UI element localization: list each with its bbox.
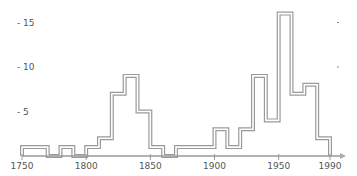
x-tick-label: 1900 [203,161,226,171]
histogram-inner-line [22,14,330,156]
y-tick-label: - 15 [17,18,35,28]
x-tick-label: 1950 [267,161,290,171]
x-tick-label: 1800 [75,161,98,171]
x-tick-label: 1990 [319,161,342,171]
x-axis-arrow-icon [340,153,346,159]
histogram-steps [22,14,330,156]
x-tick-label: 1850 [139,161,162,171]
histogram-outline [22,14,330,156]
x-tick-label: 1750 [11,161,34,171]
y-tick-label: - 5 [17,107,29,117]
histogram-chart: - 5- 10- 15 175018001850190019501990 [0,0,357,176]
y-tick-label: - 10 [17,62,35,72]
